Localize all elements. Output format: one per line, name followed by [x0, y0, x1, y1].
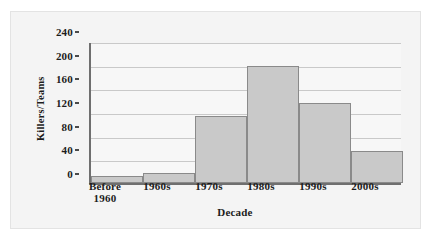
- x-tick-label-line: Before: [89, 180, 121, 192]
- y-tick-mark: [75, 31, 79, 33]
- chart-frame-border: Killers/Teams 04080120160200240 Before19…: [10, 11, 421, 229]
- plot-area: [89, 43, 401, 185]
- y-tick-mark: [75, 78, 79, 80]
- x-tick-label: 1970s: [183, 180, 235, 192]
- x-tick-label-line: 1990s: [299, 180, 326, 192]
- bar[interactable]: [299, 103, 351, 183]
- y-tick-label: 0: [39, 169, 73, 180]
- y-tick-label: 240: [39, 27, 73, 38]
- bar[interactable]: [195, 116, 247, 183]
- x-tick-label-line: 2000s: [351, 180, 378, 192]
- bar[interactable]: [351, 151, 403, 183]
- x-tick-label: 2000s: [339, 180, 391, 192]
- x-tick-label: Before1960: [79, 180, 131, 204]
- x-axis-title: Decade: [79, 206, 391, 218]
- x-tick-label-line: 1970s: [195, 180, 222, 192]
- y-tick-mark: [75, 102, 79, 104]
- y-tick-mark: [75, 149, 79, 151]
- y-tick-label: 80: [39, 121, 73, 132]
- x-tick-label-line: 1960: [79, 192, 131, 204]
- y-tick-label: 40: [39, 145, 73, 156]
- bar[interactable]: [247, 66, 299, 183]
- x-tick-label-line: 1980s: [247, 180, 274, 192]
- y-tick-label: 160: [39, 74, 73, 85]
- y-tick-label: 120: [39, 98, 73, 109]
- x-tick-label: 1960s: [131, 180, 183, 192]
- y-tick-mark: [75, 173, 79, 175]
- x-tick-label: 1990s: [287, 180, 339, 192]
- y-tick-mark: [75, 126, 79, 128]
- y-tick-mark: [75, 55, 79, 57]
- x-tick-label: 1980s: [235, 180, 287, 192]
- y-tick-label: 200: [39, 50, 73, 61]
- x-tick-label-line: 1960s: [143, 180, 170, 192]
- chart-figure: Killers/Teams 04080120160200240 Before19…: [0, 0, 432, 240]
- bar-series: [91, 43, 401, 183]
